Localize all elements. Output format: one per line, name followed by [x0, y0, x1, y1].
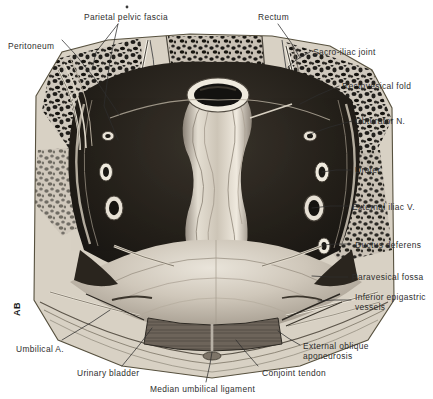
label-sacro-iliac-joint: Sacro-iliac joint: [313, 48, 376, 58]
pelvic-section-illustration: [0, 0, 433, 399]
label-external-oblique-aponeurosis: External oblique aponeurosis: [303, 342, 369, 361]
label-urinary-bladder: Urinary bladder: [77, 369, 140, 379]
plate-ink-dot: [126, 6, 129, 9]
rectal-lumen: [187, 78, 249, 112]
label-inferior-epigastric-vessels: Inferior epigastric vessels: [355, 293, 426, 312]
artist-signature: AB: [12, 302, 22, 316]
label-rectovesical-fold: Rectovesical fold: [342, 82, 411, 92]
label-ductus-deferens: Ductus deferens: [355, 241, 421, 251]
label-peritoneum: Peritoneum: [8, 42, 54, 52]
label-parietal-pelvic-fascia: Parietal pelvic fascia: [84, 13, 168, 23]
label-umbilical-a: Umbilical A.: [16, 345, 64, 355]
label-paravesical-fossa: Paravesical fossa: [352, 273, 424, 283]
label-conjoint-tendon: Conjoint tendon: [262, 369, 326, 379]
label-obturator-n: Obturator N.: [355, 117, 405, 127]
label-ureter: Ureter: [355, 166, 380, 176]
label-median-umbilical-ligament: Median umbilical ligament: [150, 385, 255, 395]
label-rectum: Rectum: [258, 13, 289, 23]
label-external-iliac-v: External iliac V.: [352, 203, 415, 213]
